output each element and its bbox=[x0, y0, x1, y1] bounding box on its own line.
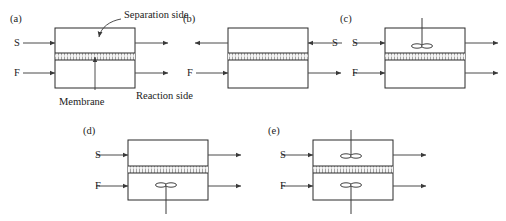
upper-sparger-right-c bbox=[422, 44, 433, 48]
membrane-band-b bbox=[228, 53, 308, 60]
membrane-band-d bbox=[128, 166, 208, 173]
membrane-band-e bbox=[313, 166, 393, 173]
sweep-inlet-label-b: S bbox=[332, 37, 338, 48]
membrane-reactor-diagram: (a)SF(b)SF(c)SF(d)SF(e)SF Separation sid… bbox=[0, 0, 506, 221]
panel-e: (e)SF bbox=[268, 125, 426, 214]
sweep-inlet-label-d: S bbox=[95, 149, 101, 160]
panel-d: (d)SF bbox=[83, 125, 241, 214]
panel-c: (c)SF bbox=[340, 13, 498, 88]
membrane-label: Membrane bbox=[59, 96, 105, 107]
upper-sparger-left-e bbox=[341, 154, 352, 158]
upper-sparger-left-c bbox=[412, 44, 423, 48]
figure-canvas: (a)SF(b)SF(c)SF(d)SF(e)SF Separation sid… bbox=[0, 0, 506, 221]
feed-inlet-label-d: F bbox=[95, 180, 101, 191]
panel-a: (a)SF bbox=[10, 13, 168, 88]
panel-label-e: (e) bbox=[268, 125, 280, 137]
panel-label-a: (a) bbox=[10, 13, 22, 25]
panel-b: (b)SF bbox=[183, 13, 342, 88]
feed-inlet-label-a: F bbox=[14, 67, 20, 78]
lower-sparger-right-e bbox=[351, 183, 362, 187]
sweep-inlet-label-a: S bbox=[14, 37, 20, 48]
sweep-inlet-label-e: S bbox=[280, 149, 286, 160]
lower-sparger-left-e bbox=[341, 183, 352, 187]
lower-sparger-right-d bbox=[166, 183, 177, 187]
sweep-inlet-label-c: S bbox=[352, 37, 358, 48]
reaction-side-label: Reaction side bbox=[136, 90, 193, 101]
feed-inlet-label-e: F bbox=[280, 180, 286, 191]
membrane-band-c bbox=[385, 53, 465, 60]
feed-inlet-label-b: F bbox=[187, 67, 193, 78]
separation-side-label: Separation side bbox=[124, 9, 189, 20]
feed-inlet-label-c: F bbox=[352, 67, 358, 78]
panel-label-c: (c) bbox=[340, 13, 352, 25]
lower-sparger-left-d bbox=[156, 183, 167, 187]
panels-group: (a)SF(b)SF(c)SF(d)SF(e)SF bbox=[10, 13, 498, 214]
upper-sparger-right-e bbox=[351, 154, 362, 158]
panel-label-d: (d) bbox=[83, 125, 96, 137]
